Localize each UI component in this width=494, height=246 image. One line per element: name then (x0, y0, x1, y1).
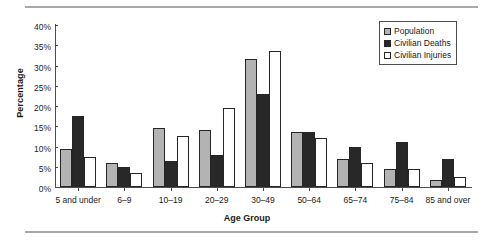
bar-injuries[interactable] (177, 136, 189, 187)
legend-label: Civilian Deaths (394, 38, 451, 48)
y-axis-tick: 35% (34, 36, 55, 54)
bar-population[interactable] (60, 149, 72, 187)
y-axis-tick-label: 5% (39, 164, 51, 174)
y-axis-tick-label: 30% (34, 63, 51, 73)
bar-group: 5 and under (55, 25, 101, 187)
y-axis-tick: 15% (34, 117, 55, 135)
x-axis-tick-label: 85 and over (420, 195, 476, 205)
bar-population[interactable] (106, 163, 118, 187)
y-axis-tick: 25% (34, 77, 55, 95)
y-axis-tick-label: 35% (34, 42, 51, 52)
bar-injuries[interactable] (408, 169, 420, 187)
y-axis-tick-label: 25% (34, 83, 51, 93)
legend-item[interactable]: Civilian Injuries (384, 49, 451, 61)
bar-deaths[interactable] (165, 161, 177, 187)
top-divider-rule (25, 6, 478, 8)
chart-figure: Percentage Age Group 0%5%10%15%20%25%30%… (0, 0, 494, 246)
bar-population[interactable] (245, 59, 257, 187)
y-axis-tick-label: 15% (34, 123, 51, 133)
y-axis-tick-label: 40% (34, 22, 51, 32)
legend-label: Civilian Injuries (394, 50, 451, 60)
bar-deaths[interactable] (396, 142, 408, 187)
bar-population[interactable] (430, 180, 442, 187)
y-axis-title: Percentage (15, 48, 25, 138)
bar-population[interactable] (199, 130, 211, 187)
bar-deaths[interactable] (211, 155, 223, 187)
x-axis-tick-mark (402, 187, 403, 191)
legend-item[interactable]: Population (384, 25, 451, 37)
bar-deaths[interactable] (118, 167, 130, 187)
y-axis-tick: 5% (39, 158, 55, 176)
y-axis-tick: 20% (34, 97, 55, 115)
bar-population[interactable] (337, 159, 349, 187)
x-axis-tick-mark (171, 187, 172, 191)
bar-deaths[interactable] (442, 159, 454, 187)
x-axis-tick-mark (448, 187, 449, 191)
bar-group: 6–9 (101, 25, 147, 187)
bar-injuries[interactable] (223, 108, 235, 187)
y-axis-tick-mark (55, 187, 58, 188)
chart-legend: PopulationCivilian DeathsCivilian Injuri… (379, 21, 457, 65)
y-axis-tick-label: 0% (39, 184, 51, 194)
x-axis-tick-mark (124, 187, 125, 191)
bar-injuries[interactable] (315, 138, 327, 187)
bar-group: 10–19 (147, 25, 193, 187)
y-axis-tick-label: 10% (34, 144, 51, 154)
x-axis-tick-mark (355, 187, 356, 191)
x-axis-tick-mark (263, 187, 264, 191)
bar-population[interactable] (291, 132, 303, 187)
bottom-divider-rule (25, 231, 478, 233)
y-axis-tick: 0% (39, 178, 55, 196)
bar-deaths[interactable] (349, 147, 361, 188)
legend-label: Population (394, 26, 434, 36)
bar-group: 30–49 (240, 25, 286, 187)
bar-group: 50–64 (286, 25, 332, 187)
bar-deaths[interactable] (303, 132, 315, 187)
legend-item[interactable]: Civilian Deaths (384, 37, 451, 49)
y-axis-tick: 10% (34, 138, 55, 156)
bar-population[interactable] (384, 169, 396, 187)
x-axis-tick-mark (78, 187, 79, 191)
x-axis-title: Age Group (0, 213, 494, 223)
legend-swatch-population (384, 28, 391, 35)
legend-swatch-deaths (384, 40, 391, 47)
bar-injuries[interactable] (454, 177, 466, 187)
bar-deaths[interactable] (257, 94, 269, 187)
bar-group: 65–74 (332, 25, 378, 187)
bar-deaths[interactable] (72, 116, 84, 187)
bar-injuries[interactable] (84, 157, 96, 187)
x-axis-tick-mark (309, 187, 310, 191)
x-axis-tick-mark (217, 187, 218, 191)
y-axis-tick: 30% (34, 57, 55, 75)
y-axis-tick: 40% (34, 16, 55, 34)
bar-group: 20–29 (194, 25, 240, 187)
bar-population[interactable] (153, 128, 165, 187)
y-axis-tick-label: 20% (34, 103, 51, 113)
bar-injuries[interactable] (130, 173, 142, 187)
legend-swatch-injuries (384, 52, 391, 59)
bar-injuries[interactable] (361, 163, 373, 187)
bar-injuries[interactable] (269, 51, 281, 187)
